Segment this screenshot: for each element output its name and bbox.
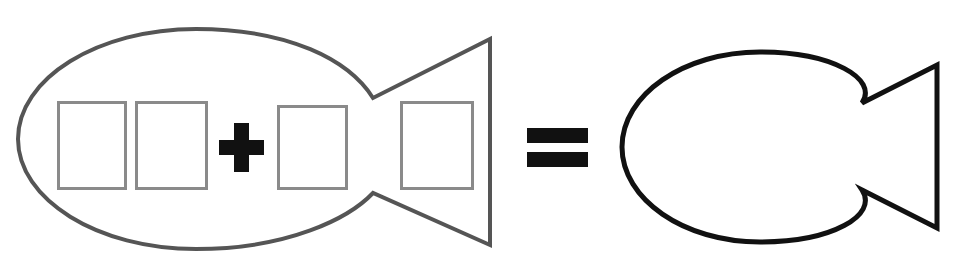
plus-sign-icon [219,123,264,172]
box-3 [279,107,347,189]
figure-canvas: Fish outline containing four empty recta… [0,0,959,272]
right-fish-outline [622,52,937,242]
box-4 [402,103,473,189]
plus-sign-glyph [219,123,264,172]
box-2 [137,103,207,189]
left-fish-group [18,29,490,249]
equals-sign-icon [527,128,588,167]
equals-bar-top [527,128,588,143]
left-fish-outline [18,29,490,249]
box-1 [59,103,126,189]
pictorial-equation-figure: Fish outline containing four empty recta… [0,0,959,272]
right-fish-group [622,52,937,242]
boxes-group [59,103,473,189]
equals-bar-bottom [527,152,588,167]
